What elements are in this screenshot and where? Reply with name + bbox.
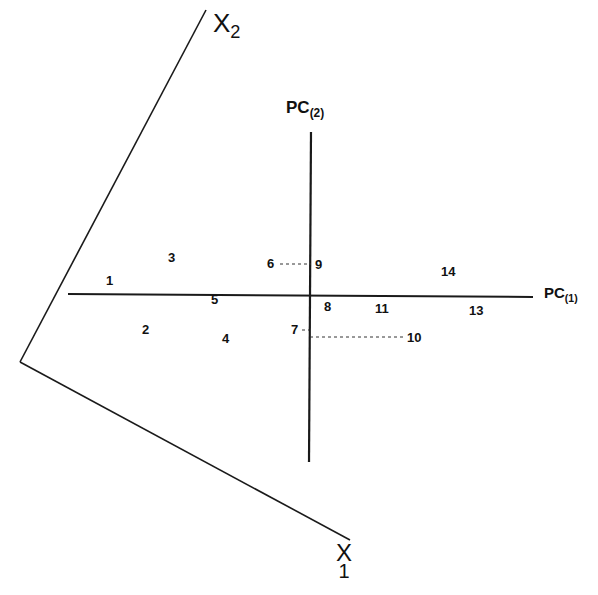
point-label-11: 11 (375, 302, 389, 315)
x1-axis-label: X 1 (335, 541, 353, 581)
point-label-6: 6 (267, 257, 274, 270)
pc1-axis-line (68, 294, 533, 297)
point-label-8: 8 (324, 300, 331, 313)
pc2-axis-line (309, 132, 311, 462)
point-label-7: 7 (291, 323, 298, 336)
point-label-5: 5 (211, 293, 218, 306)
point-label-1: 1 (106, 274, 113, 287)
pca-diagram-canvas (0, 0, 598, 595)
point-label-10: 10 (407, 331, 421, 344)
x2-label-text: X (213, 8, 230, 38)
pc1-axis-label: PC(1) (544, 285, 578, 303)
pc2-label-subscript: (2) (310, 106, 325, 120)
x2-label-subscript: 2 (230, 22, 240, 42)
pc1-label-text: PC (544, 284, 565, 301)
x2-axis-label: X2 (213, 10, 240, 42)
pc2-label-text: PC (286, 98, 310, 117)
x2-axis-line (20, 10, 206, 362)
x1-axis-line (20, 362, 350, 540)
pc2-axis-label: PC(2) (286, 99, 324, 120)
point-label-4: 4 (222, 332, 229, 345)
point-label-13: 13 (469, 304, 483, 317)
point-label-9: 9 (315, 258, 322, 271)
point-label-3: 3 (168, 251, 175, 264)
pc1-label-subscript: (1) (565, 292, 578, 304)
point-label-2: 2 (142, 323, 149, 336)
point-label-14: 14 (441, 265, 455, 278)
